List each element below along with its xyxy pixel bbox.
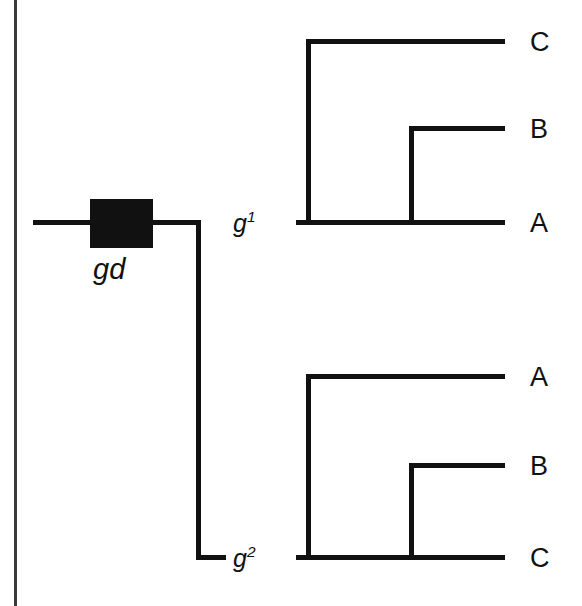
gene-tree-figure: gd g1 g2 C B A A B C [0,0,582,606]
tree-drawing-canvas [0,0,582,606]
tip-label-g2-c: C [530,545,550,572]
gene-copy-label-g2: g2 [233,546,256,571]
tree-lines [33,42,505,558]
gene-copy-label-g1-base: g [233,209,247,237]
tip-label-g1-a: A [530,210,548,237]
tip-label-g2-b: B [530,453,548,480]
gene-copy-label-g2-base: g [233,544,247,572]
tip-label-g1-c: C [530,29,550,56]
gene-copy-label-g2-superscript: 2 [247,543,256,560]
gene-duplication-label: gd [93,255,125,284]
gene-copy-label-g1-superscript: 1 [247,208,256,225]
tip-label-g2-a: A [530,364,548,391]
gene-copy-label-g1: g1 [233,211,256,236]
tip-label-g1-b: B [530,116,548,143]
gene-duplication-node-marker [90,199,153,248]
